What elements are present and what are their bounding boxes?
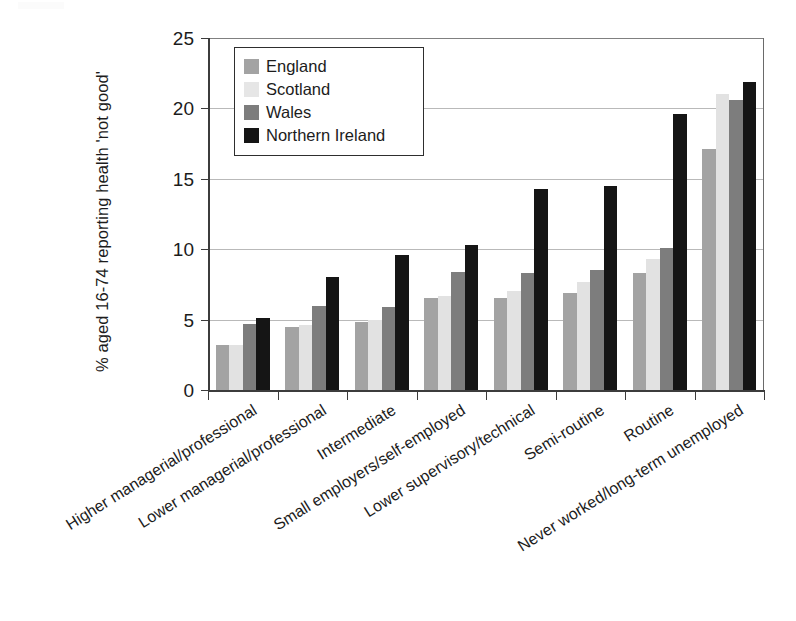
bar-northern-ireland-5: [604, 186, 618, 390]
bar-scotland-7: [716, 94, 730, 390]
bar-northern-ireland-1: [326, 277, 340, 390]
bar-england-2: [355, 322, 369, 390]
bar-wales-1: [312, 306, 326, 390]
bar-wales-5: [590, 270, 604, 390]
legend-swatch-wales-icon: [244, 105, 259, 120]
legend-swatch-northern-ireland-icon: [244, 128, 259, 143]
legend-item: England: [244, 55, 414, 78]
bar-wales-7: [729, 100, 743, 390]
bar-wales-2: [382, 307, 396, 390]
bar-wales-4: [521, 273, 535, 390]
bar-wales-0: [243, 324, 257, 390]
bar-scotland-2: [368, 320, 382, 390]
bar-northern-ireland-6: [673, 114, 687, 390]
bar-england-0: [216, 345, 230, 390]
scan-artifact: [18, 2, 64, 9]
bar-northern-ireland-4: [534, 189, 548, 390]
x-axis-tickmark: [417, 390, 418, 400]
bar-scotland-1: [299, 325, 313, 390]
bar-wales-6: [660, 248, 674, 390]
bar-northern-ireland-7: [743, 82, 757, 390]
bar-wales-3: [451, 272, 465, 390]
bar-scotland-5: [577, 282, 591, 390]
bar-scotland-4: [507, 291, 521, 390]
x-axis-tickmark: [486, 390, 487, 400]
x-axis-tickmark: [556, 390, 557, 400]
legend-item: Scotland: [244, 78, 414, 101]
bar-england-6: [633, 273, 647, 390]
bar-northern-ireland-2: [395, 255, 409, 390]
bar-scotland-6: [646, 259, 660, 390]
legend-item: Wales: [244, 101, 414, 124]
x-axis-tickmark: [695, 390, 696, 400]
bar-england-3: [424, 298, 438, 390]
y-axis-tick-label: 10: [173, 240, 194, 259]
legend-item: Northern Ireland: [244, 124, 414, 147]
chart-legend: England Scotland Wales Northern Ireland: [234, 47, 424, 156]
bar-england-5: [563, 293, 577, 390]
y-axis-tick-label: 0: [183, 381, 194, 400]
bar-northern-ireland-0: [256, 318, 270, 390]
bar-chart-figure: % aged 16-74 reporting health 'not good'…: [0, 0, 796, 621]
bar-england-7: [702, 149, 716, 390]
bar-england-1: [285, 327, 299, 390]
y-axis-tick-label: 20: [173, 99, 194, 118]
x-axis-tickmark: [208, 390, 209, 400]
bar-scotland-0: [229, 345, 243, 390]
legend-label-wales: Wales: [266, 104, 311, 121]
legend-label-england: England: [266, 58, 327, 75]
x-axis-tickmark: [625, 390, 626, 400]
y-axis-tick-label: 25: [173, 29, 194, 48]
x-axis-tickmark: [347, 390, 348, 400]
x-axis-tickmark: [764, 390, 765, 400]
y-axis-tick-label: 15: [173, 169, 194, 188]
bar-england-4: [494, 298, 508, 390]
x-axis-tickmark: [278, 390, 279, 400]
legend-swatch-scotland-icon: [244, 82, 259, 97]
bar-northern-ireland-3: [465, 245, 479, 390]
legend-swatch-england-icon: [244, 59, 259, 74]
y-axis-tick-label: 5: [183, 310, 194, 329]
legend-label-scotland: Scotland: [266, 81, 330, 98]
y-axis-title: % aged 16-74 reporting health 'not good': [93, 42, 112, 402]
legend-label-northern-ireland: Northern Ireland: [266, 127, 385, 144]
bar-scotland-3: [438, 296, 452, 390]
